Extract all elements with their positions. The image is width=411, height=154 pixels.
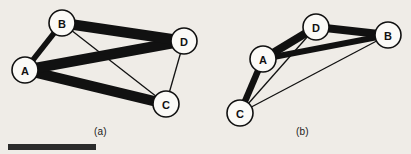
node-label: D bbox=[180, 36, 188, 48]
node-b-c[interactable]: C bbox=[227, 100, 253, 126]
node-b-a[interactable]: A bbox=[250, 46, 276, 72]
node-a-d[interactable]: D bbox=[171, 28, 197, 54]
edge-a-bd bbox=[62, 23, 184, 41]
node-label: B bbox=[384, 30, 392, 42]
node-a-a[interactable]: A bbox=[12, 57, 38, 83]
edge-b-cd bbox=[240, 27, 316, 113]
graph-canvas: ABCDABCD bbox=[0, 0, 411, 154]
graph-figure: ABCDABCD (a) (b) bbox=[0, 0, 411, 154]
panel-a-caption: (a) bbox=[94, 126, 107, 137]
edges-layer bbox=[25, 23, 388, 113]
node-label: B bbox=[58, 18, 66, 30]
node-label: D bbox=[312, 22, 320, 34]
node-label: A bbox=[259, 54, 267, 66]
panel-b-caption: (b) bbox=[296, 126, 309, 137]
node-b-b[interactable]: B bbox=[375, 22, 401, 48]
node-label: C bbox=[236, 108, 244, 120]
node-a-c[interactable]: C bbox=[153, 91, 179, 117]
node-label: A bbox=[21, 65, 29, 77]
node-label: C bbox=[162, 99, 170, 111]
node-b-d[interactable]: D bbox=[303, 14, 329, 40]
scale-bar bbox=[8, 144, 96, 150]
node-a-b[interactable]: B bbox=[49, 10, 75, 36]
